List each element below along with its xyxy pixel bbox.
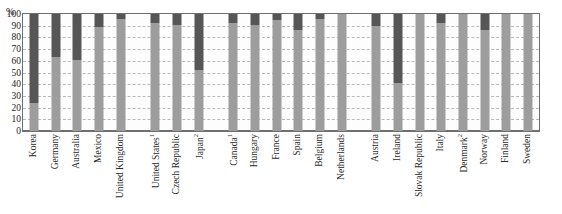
bar-segment-upper bbox=[315, 14, 324, 19]
x-axis-label-france: France bbox=[271, 134, 281, 160]
x-label-slot: Austria bbox=[364, 134, 386, 214]
bar-slot bbox=[474, 14, 496, 131]
bar-segment-lower bbox=[437, 23, 446, 131]
bar-slot bbox=[23, 14, 45, 131]
bar-segment-lower bbox=[51, 57, 60, 131]
x-label-slot: Norway bbox=[473, 134, 495, 214]
x-axis-label-mexico: Mexico bbox=[93, 134, 103, 163]
y-axis-tick-30: 30 bbox=[0, 91, 21, 100]
x-label-slot: Denmark2 bbox=[451, 134, 473, 214]
x-axis-label-unitedstates: United States1 bbox=[148, 134, 161, 188]
bar-slot bbox=[66, 14, 88, 131]
y-axis-tick-80: 80 bbox=[0, 33, 21, 42]
bar-segment-lower bbox=[94, 27, 103, 131]
stacked-bar bbox=[393, 14, 402, 131]
x-label-slot: United Kingdom bbox=[109, 134, 131, 214]
bar-segment-lower bbox=[73, 60, 82, 131]
bar-segment-upper bbox=[372, 14, 381, 26]
y-axis: 1009080706050403020100 bbox=[0, 13, 21, 132]
bar-segment-upper bbox=[73, 14, 82, 60]
bar-slot bbox=[409, 14, 431, 131]
x-label-slot: France bbox=[265, 134, 287, 214]
stacked-bar bbox=[523, 14, 532, 131]
stacked-bar bbox=[480, 14, 489, 131]
bar-segment-lower bbox=[294, 30, 303, 131]
y-axis-tick-40: 40 bbox=[0, 80, 21, 89]
x-axis-label-denmark: Denmark2 bbox=[455, 134, 468, 173]
stacked-bar bbox=[94, 14, 103, 131]
x-axis-label-netherlands: Netherlands bbox=[336, 134, 346, 180]
bar-segment-lower bbox=[229, 23, 238, 131]
x-label-slot: Mexico bbox=[87, 134, 109, 214]
stacked-bar bbox=[458, 14, 467, 131]
stacked-bar bbox=[172, 14, 181, 131]
stacked-bar bbox=[372, 14, 381, 131]
y-axis-tick-0: 0 bbox=[0, 127, 21, 136]
bar-slot bbox=[365, 14, 387, 131]
bar-segment-lower bbox=[337, 14, 346, 131]
x-label-slot: Spain bbox=[286, 134, 308, 214]
bar-segment-lower bbox=[458, 14, 467, 131]
bar-segment-upper bbox=[294, 14, 303, 30]
x-label-slot: Korea bbox=[22, 134, 44, 214]
bar-segment-upper bbox=[29, 14, 38, 103]
x-axis-label-sweden: Sweden bbox=[522, 134, 532, 164]
bar-segment-upper bbox=[250, 14, 259, 25]
x-label-slot: Germany bbox=[44, 134, 66, 214]
stacked-bar bbox=[29, 14, 38, 131]
bar-segment-upper bbox=[151, 14, 160, 23]
x-label-slot: Australia bbox=[65, 134, 87, 214]
x-axis-label-ireland: Ireland bbox=[392, 134, 402, 161]
x-axis-label-belgium: Belgium bbox=[314, 134, 324, 167]
stacked-bar bbox=[194, 14, 203, 131]
x-axis-label-finland: Finland bbox=[500, 134, 510, 163]
bar-segment-lower bbox=[272, 20, 281, 131]
x-label-slot: United States1 bbox=[143, 134, 165, 214]
bar-slot bbox=[222, 14, 244, 131]
x-label-slot: Canada1 bbox=[221, 134, 243, 214]
bar-segment-upper bbox=[51, 14, 60, 57]
bar-series bbox=[23, 14, 539, 131]
stacked-bar bbox=[294, 14, 303, 131]
bar-segment-lower bbox=[393, 83, 402, 131]
bar-segment-lower bbox=[151, 23, 160, 131]
x-label-slot: Finland bbox=[494, 134, 516, 214]
x-axis-label-australia: Australia bbox=[71, 134, 81, 169]
bar-segment-lower bbox=[194, 70, 203, 131]
x-axis-label-germany: Germany bbox=[50, 134, 60, 169]
x-label-slot: Hungary bbox=[243, 134, 265, 214]
x-axis-label-slovakrepublic: Slovak Republic bbox=[414, 134, 424, 197]
bar-slot bbox=[287, 14, 309, 131]
bar-slot bbox=[387, 14, 409, 131]
x-axis-label-canada: Canada1 bbox=[226, 134, 239, 166]
cut-off-title bbox=[0, 0, 562, 9]
plot-area bbox=[22, 13, 540, 132]
stacked-bar bbox=[415, 14, 424, 131]
stacked-bar bbox=[502, 14, 511, 131]
y-axis-tick-20: 20 bbox=[0, 103, 21, 112]
bar-segment-lower bbox=[29, 103, 38, 131]
x-axis-label-czechrepublic: Czech Republic bbox=[171, 134, 181, 194]
stacked-bar bbox=[73, 14, 82, 131]
y-axis-tick-70: 70 bbox=[0, 45, 21, 54]
x-label-slot: Italy bbox=[429, 134, 451, 214]
x-axis-label-korea: Korea bbox=[28, 134, 38, 157]
bar-slot bbox=[452, 14, 474, 131]
bar-slot bbox=[188, 14, 210, 131]
bar-segment-lower bbox=[250, 25, 259, 131]
bar-segment-lower bbox=[372, 26, 381, 131]
x-label-slot: Belgium bbox=[308, 134, 330, 214]
bar-segment-upper bbox=[437, 14, 446, 23]
x-label-slot: Ireland bbox=[386, 134, 408, 214]
stacked-bar bbox=[315, 14, 324, 131]
bar-segment-upper bbox=[194, 14, 203, 70]
bar-segment-upper bbox=[229, 14, 238, 23]
stacked-bar bbox=[337, 14, 346, 131]
bar-segment-lower bbox=[172, 25, 181, 131]
bar-segment-lower bbox=[315, 19, 324, 131]
y-axis-tick-100: 100 bbox=[0, 10, 21, 19]
y-axis-tick-50: 50 bbox=[0, 68, 21, 77]
bar-segment-upper bbox=[480, 14, 489, 30]
bar-segment-upper bbox=[94, 14, 103, 27]
stacked-bar bbox=[51, 14, 60, 131]
